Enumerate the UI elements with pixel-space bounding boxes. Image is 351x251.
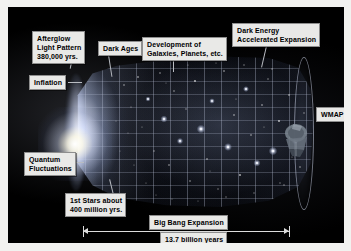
timeline-arrow-left — [83, 228, 88, 234]
afterglow-light-pattern-label: Afterglow Light Pattern 380,000 yrs. — [32, 31, 85, 64]
timeline-right-cap — [289, 226, 290, 237]
first-stars-label: 1st Stars about 400 million yrs. — [65, 193, 126, 217]
development-of-galaxies-label: Development of Galaxies, Planets, etc. — [142, 37, 227, 61]
figure-frame: Afterglow Light Pattern 380,000 yrs. Inf… — [0, 0, 351, 251]
big-bang-expansion-label: Big Bang Expansion — [149, 215, 228, 230]
wmap-label: WMAP — [316, 107, 344, 122]
universe-age-label: 13.7 billion years — [160, 232, 227, 243]
inflation-label: Inflation — [29, 75, 66, 90]
dark-energy-label: Dark Energy Accelerated Expansion — [232, 23, 320, 47]
quantum-fluctuations-label: Quantum Fluctuations — [24, 152, 76, 176]
diagram-canvas: Afterglow Light Pattern 380,000 yrs. Inf… — [8, 7, 344, 243]
dark-ages-label: Dark Ages — [98, 41, 142, 56]
timeline-arrow-right — [284, 228, 289, 234]
leader-inflation — [68, 82, 82, 83]
wmap-satellite-icon — [280, 119, 314, 161]
